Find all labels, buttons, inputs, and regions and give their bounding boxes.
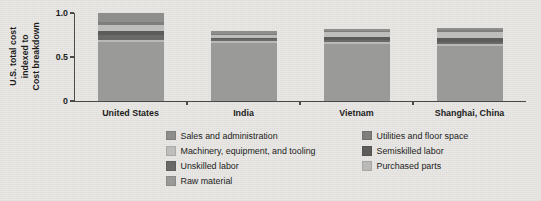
x-tick-mark bbox=[186, 101, 187, 105]
chart-legend: Sales and administrationMachinery, equip… bbox=[166, 128, 526, 190]
x-tick-label: United States bbox=[102, 108, 159, 118]
bar-shanghai-china[interactable] bbox=[437, 28, 503, 101]
legend-item[interactable]: Raw material bbox=[166, 174, 316, 189]
legend-item-label: Raw material bbox=[181, 176, 233, 186]
y-tick-label: 0 bbox=[63, 96, 68, 106]
legend-item-label: Unskilled labor bbox=[181, 161, 239, 171]
legend-item[interactable]: Unskilled labor bbox=[166, 158, 316, 173]
legend-item[interactable]: Sales and administration bbox=[166, 128, 316, 143]
y-tick-mark bbox=[70, 56, 74, 57]
x-tick-label: India bbox=[233, 108, 254, 118]
y-tick-mark bbox=[70, 12, 74, 13]
legend-item-label: Utilities and floor space bbox=[377, 131, 469, 141]
x-tick-mark bbox=[299, 101, 300, 105]
legend-column-right: Utilities and floor spaceSemiskilled lab… bbox=[362, 128, 468, 174]
legend-item-label: Machinery, equipment, and tooling bbox=[181, 146, 316, 156]
bar-india[interactable] bbox=[211, 31, 277, 101]
legend-swatch bbox=[166, 176, 176, 186]
legend-swatch bbox=[166, 161, 176, 171]
y-axis-title-line-1: Cost breakdown bbox=[31, 22, 43, 90]
legend-item-label: Sales and administration bbox=[181, 131, 278, 141]
legend-swatch bbox=[166, 131, 176, 141]
bar-vietnam[interactable] bbox=[324, 29, 390, 101]
bar-segment bbox=[98, 13, 164, 22]
legend-item[interactable]: Utilities and floor space bbox=[362, 128, 468, 143]
legend-item-label: Semiskilled labor bbox=[377, 146, 444, 156]
x-tick-label: Shanghai, China bbox=[435, 108, 505, 118]
legend-column-left: Sales and administrationMachinery, equip… bbox=[166, 128, 316, 189]
y-axis-title-line-2: indexed to bbox=[19, 34, 31, 78]
bar-united-states[interactable] bbox=[98, 13, 164, 101]
y-axis-title-line-3: U.S. total cost bbox=[8, 27, 20, 86]
plot-area: 00.51.0 United StatesIndiaVietnamShangha… bbox=[74, 13, 526, 101]
legend-swatch bbox=[362, 131, 372, 141]
legend-item[interactable]: Machinery, equipment, and tooling bbox=[166, 143, 316, 158]
legend-item[interactable]: Purchased parts bbox=[362, 158, 468, 173]
bar-segment bbox=[98, 42, 164, 101]
y-tick-label: 1.0 bbox=[56, 8, 68, 18]
stacked-bar-chart: Cost breakdown indexed to U.S. total cos… bbox=[0, 0, 541, 201]
legend-item-label: Purchased parts bbox=[377, 161, 442, 171]
bar-segment bbox=[211, 43, 277, 101]
y-axis-line bbox=[74, 13, 75, 101]
legend-swatch bbox=[362, 161, 372, 171]
bar-segment bbox=[324, 44, 390, 101]
legend-swatch bbox=[166, 146, 176, 156]
legend-swatch bbox=[362, 146, 372, 156]
y-axis-title: Cost breakdown indexed to U.S. total cos… bbox=[2, 0, 48, 112]
x-tick-mark bbox=[412, 101, 413, 105]
bar-segment bbox=[437, 46, 503, 101]
y-tick-mark bbox=[70, 100, 74, 101]
y-tick-label: 0.5 bbox=[56, 52, 68, 62]
legend-item[interactable]: Semiskilled labor bbox=[362, 143, 468, 158]
x-tick-label: Vietnam bbox=[339, 108, 373, 118]
